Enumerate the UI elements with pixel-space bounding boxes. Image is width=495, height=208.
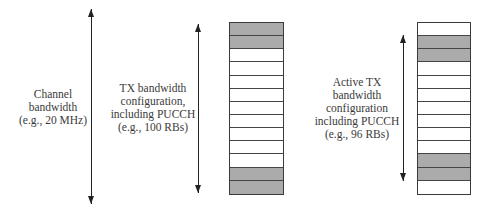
arrow-down-icon <box>88 196 94 204</box>
arrow-down-icon <box>400 173 406 181</box>
pucch-resource-block <box>418 168 470 181</box>
label-line: TX bandwidth <box>108 82 198 95</box>
resource-block <box>230 141 283 154</box>
resource-block <box>418 62 470 75</box>
resource-block <box>418 89 470 102</box>
resource-block <box>418 181 470 194</box>
label-line: Channel <box>13 88 93 101</box>
active-tx-bandwidth-arrow <box>403 35 404 181</box>
resource-block <box>230 102 283 115</box>
tx-config-resource-block-grid <box>229 22 284 195</box>
pucch-resource-block <box>230 23 283 36</box>
resource-block <box>418 128 470 141</box>
pucch-resource-block <box>230 168 283 181</box>
label-line: Active TX <box>312 76 402 89</box>
label-line: configuration <box>312 102 402 115</box>
label-line: including PUCCH <box>108 108 198 121</box>
resource-block <box>418 115 470 128</box>
tx-bandwidth-config-label: TX bandwidth configuration, including PU… <box>108 82 198 134</box>
resource-block <box>418 102 470 115</box>
resource-block <box>418 23 470 36</box>
label-line: (e.g., 96 RBs) <box>312 128 402 141</box>
label-line: configuration, <box>108 95 198 108</box>
pucch-resource-block <box>418 49 470 62</box>
label-line: bandwidth <box>13 101 93 114</box>
pucch-resource-block <box>230 181 283 194</box>
resource-block <box>418 141 470 154</box>
arrow-up-icon <box>400 35 406 43</box>
resource-block <box>230 89 283 102</box>
label-line: including PUCCH <box>312 115 402 128</box>
resource-block <box>230 62 283 75</box>
label-line: (e.g., 20 MHz) <box>13 114 93 127</box>
resource-block <box>230 154 283 167</box>
pucch-resource-block <box>418 36 470 49</box>
pucch-resource-block <box>418 154 470 167</box>
resource-block <box>230 128 283 141</box>
active-tx-resource-block-grid <box>417 22 471 195</box>
channel-bandwidth-label: Channel bandwidth (e.g., 20 MHz) <box>13 88 93 127</box>
resource-block <box>230 49 283 62</box>
active-tx-bandwidth-label: Active TX bandwidth configuration includ… <box>312 76 402 141</box>
label-line: bandwidth <box>312 89 402 102</box>
arrow-down-icon <box>195 185 201 193</box>
arrow-up-icon <box>88 9 94 17</box>
pucch-resource-block <box>230 36 283 49</box>
resource-block <box>230 115 283 128</box>
arrow-up-icon <box>195 24 201 32</box>
resource-block <box>418 76 470 89</box>
tx-bandwidth-config-arrow <box>198 24 199 193</box>
label-line: (e.g., 100 RBs) <box>108 121 198 134</box>
resource-block <box>230 76 283 89</box>
